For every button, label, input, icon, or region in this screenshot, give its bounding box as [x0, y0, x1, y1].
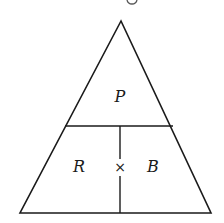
cropped-text-fragment — [127, 0, 137, 4]
triangle-svg: P R × B — [0, 0, 224, 223]
label-top: P — [114, 87, 126, 106]
label-bottom-right: B — [146, 157, 159, 176]
triangle-outline — [20, 21, 211, 213]
formula-triangle-diagram: P R × B — [0, 0, 224, 223]
label-bottom-left: R — [72, 157, 85, 176]
multiply-operator: × — [114, 159, 126, 175]
